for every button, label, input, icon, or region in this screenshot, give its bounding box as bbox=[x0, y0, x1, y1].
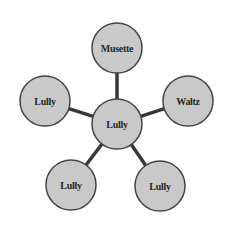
edge-center-right bbox=[141, 109, 164, 117]
node-label: Lully bbox=[106, 119, 128, 130]
node-center: Lully bbox=[92, 99, 142, 149]
edge-center-left bbox=[69, 109, 93, 117]
node-label: Musette bbox=[101, 43, 134, 54]
node-label: Waltz bbox=[176, 96, 200, 107]
node-bottom-left: Lully bbox=[46, 160, 96, 210]
nodes-group: LullyMusetteWaltzLullyLullyLully bbox=[20, 23, 213, 211]
node-left: Lully bbox=[20, 76, 70, 126]
node-bottom-right: Lully bbox=[135, 161, 185, 211]
node-label: Lully bbox=[34, 96, 56, 107]
node-label: Lully bbox=[60, 180, 82, 191]
node-top: Musette bbox=[92, 23, 142, 73]
hub-spoke-diagram: LullyMusetteWaltzLullyLullyLully bbox=[0, 0, 225, 228]
edge-center-bottom_right bbox=[131, 145, 146, 166]
node-right: Waltz bbox=[163, 76, 213, 126]
diagram-canvas: LullyMusetteWaltzLullyLullyLully bbox=[0, 0, 225, 228]
edge-center-bottom_left bbox=[86, 144, 102, 165]
node-label: Lully bbox=[149, 181, 171, 192]
